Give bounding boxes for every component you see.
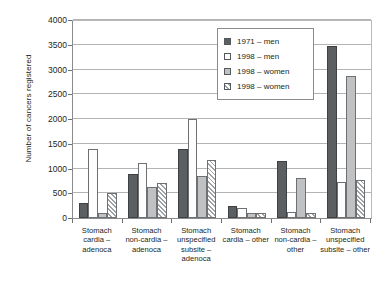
y-tick-mark xyxy=(68,70,72,71)
bar xyxy=(277,161,287,218)
bar xyxy=(337,182,347,218)
legend-item: 1998 – men xyxy=(224,49,307,64)
x-axis-tick xyxy=(370,219,371,223)
y-tick-mark xyxy=(68,45,72,46)
bar xyxy=(157,183,167,218)
legend-label: 1998 – women xyxy=(237,67,289,76)
x-axis-label-line: subsite – other xyxy=(312,245,378,254)
x-axis-tick xyxy=(221,219,222,223)
y-tick-label: 1500 xyxy=(15,139,67,149)
bar xyxy=(79,203,89,218)
x-axis-tick xyxy=(271,219,272,223)
y-tick-mark xyxy=(68,169,72,170)
y-tick-label: 500 xyxy=(15,188,67,198)
legend-swatch-icon xyxy=(224,38,231,45)
bar xyxy=(178,149,188,218)
bar xyxy=(306,213,316,218)
legend-swatch-icon xyxy=(224,53,231,60)
x-axis-label-line: subsite – xyxy=(163,245,229,254)
chart-legend: 1971 – men1998 – men1998 – women1998 – w… xyxy=(217,28,314,100)
bar xyxy=(327,46,337,218)
bar-group xyxy=(172,20,222,218)
y-tick-label: 1000 xyxy=(15,164,67,174)
bar xyxy=(356,180,366,218)
bar xyxy=(346,76,356,218)
bar xyxy=(98,213,108,218)
bar xyxy=(138,163,148,218)
legend-swatch-icon xyxy=(224,83,231,90)
x-axis-label-line: adenoca xyxy=(163,254,229,263)
legend-item: 1998 – women xyxy=(224,64,307,79)
x-axis-tick xyxy=(320,219,321,223)
x-axis-tick xyxy=(72,219,73,223)
legend-label: 1998 – men xyxy=(237,52,279,61)
y-tick-mark xyxy=(68,119,72,120)
legend-label: 1998 – women xyxy=(237,82,289,91)
bar xyxy=(188,119,198,218)
y-tick-label: 3500 xyxy=(15,40,67,50)
x-axis-tick xyxy=(122,219,123,223)
y-tick-mark xyxy=(68,94,72,95)
bar xyxy=(287,212,297,218)
y-tick-mark xyxy=(68,193,72,194)
y-tick-label: 0 xyxy=(15,213,67,223)
bar-group xyxy=(123,20,173,218)
bar xyxy=(197,176,207,218)
legend-item: 1998 – women xyxy=(224,79,307,94)
y-tick-mark xyxy=(68,144,72,145)
bar xyxy=(88,149,98,218)
bar xyxy=(237,208,247,218)
x-axis-label: Stomachunspecifiedsubsite – other xyxy=(312,226,378,254)
legend-swatch-icon xyxy=(224,68,231,75)
x-axis-label-line: unspecified xyxy=(312,235,378,244)
legend-label: 1971 – men xyxy=(237,37,279,46)
bar xyxy=(296,178,306,218)
bar xyxy=(147,187,157,218)
bar xyxy=(207,160,217,218)
bar xyxy=(107,193,117,218)
bar-chart: Number of cancers registered 05001000150… xyxy=(0,0,385,288)
legend-item: 1971 – men xyxy=(224,34,307,49)
bar-group xyxy=(321,20,371,218)
bar xyxy=(256,213,266,218)
y-tick-label: 4000 xyxy=(15,15,67,25)
y-tick-label: 2000 xyxy=(15,114,67,124)
bar xyxy=(228,206,238,218)
bar xyxy=(128,174,138,218)
x-axis-label-line: Stomach xyxy=(312,226,378,235)
y-tick-label: 3000 xyxy=(15,65,67,75)
bar xyxy=(247,213,257,218)
x-axis-tick xyxy=(171,219,172,223)
bar-group xyxy=(73,20,123,218)
y-tick-label: 2500 xyxy=(15,89,67,99)
x-axis-labels: Stomachcardia –adenocaStomachnon-cardia … xyxy=(72,226,372,286)
y-tick-mark xyxy=(68,20,72,21)
